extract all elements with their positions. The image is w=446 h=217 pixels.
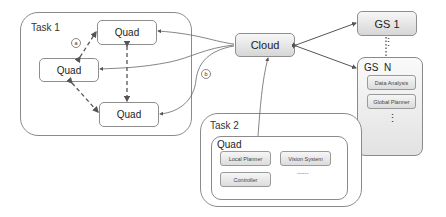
link-cloud-quad-top (158, 31, 234, 44)
diagram-edges (0, 0, 446, 217)
dashed-link-left-bottom (72, 83, 98, 112)
link-cloud-quad-left (100, 45, 234, 69)
dashed-link-left-top (80, 32, 96, 57)
link-cloud-gs1 (296, 23, 356, 45)
link-cloud-gsn (296, 46, 356, 68)
link-task2-cloud (258, 58, 268, 136)
link-cloud-quad-bottom (160, 46, 234, 114)
